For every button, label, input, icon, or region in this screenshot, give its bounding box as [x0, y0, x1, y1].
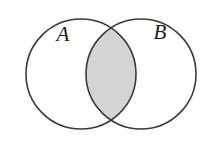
- venn-diagram-canvas: A B: [0, 0, 213, 151]
- set-label-a: A: [55, 22, 70, 46]
- venn-diagram-figure: A B: [0, 0, 213, 151]
- set-label-b: B: [154, 20, 167, 44]
